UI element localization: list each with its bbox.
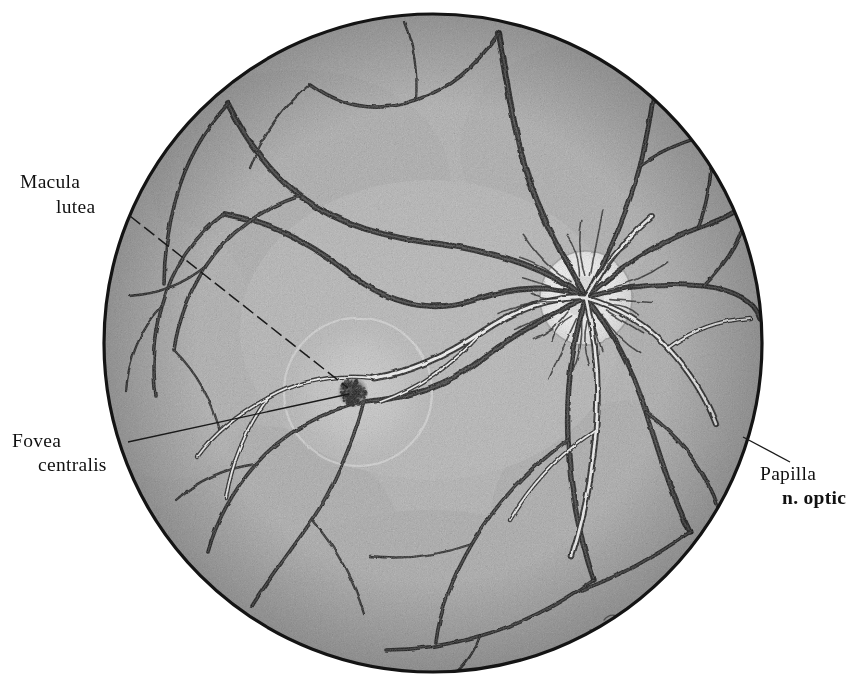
retina-vignette (104, 14, 762, 672)
label-fovea-centralis-line1: Fovea (12, 430, 61, 451)
label-macula-lutea-line1: Macula (20, 171, 80, 192)
fundus-canvas: MaculaluteaFoveacentralisPapillan. optic (0, 0, 846, 694)
label-papilla-nervi-optici-line2: n. optic (782, 487, 846, 508)
label-fovea-centralis-line2: centralis (38, 454, 107, 475)
fundus-illustration: MaculaluteaFoveacentralisPapillan. optic (0, 0, 846, 694)
label-macula-lutea-line2: lutea (56, 196, 95, 217)
label-papilla-nervi-optici-line1: Papilla (760, 463, 816, 484)
